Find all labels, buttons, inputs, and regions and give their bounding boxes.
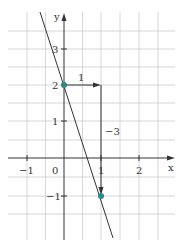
line-series xyxy=(40,12,113,238)
point-0-2 xyxy=(61,82,67,88)
axes xyxy=(8,18,172,240)
y-tick-label: 1 xyxy=(52,116,58,127)
x-tick-label: 2 xyxy=(136,165,142,176)
y-axis-label: y xyxy=(53,11,60,22)
run-arrow-head-icon xyxy=(93,83,101,88)
rise-label: −3 xyxy=(105,126,120,137)
x-axis-arrow-icon xyxy=(167,156,175,161)
line-chart: x y −1 0 1 2 3 2 1 −1 1 −3 xyxy=(0,0,183,240)
y-tick-label: −1 xyxy=(46,191,61,202)
y-axis-arrow-icon xyxy=(62,13,67,21)
grid xyxy=(8,12,175,240)
run-label: 1 xyxy=(78,72,84,83)
x-axis-label: x xyxy=(168,162,174,173)
x-tick-label: −1 xyxy=(19,165,34,176)
point-1-neg1 xyxy=(98,193,104,199)
x-tick-label: 0 xyxy=(52,165,58,176)
y-tick-label: 2 xyxy=(52,80,58,91)
